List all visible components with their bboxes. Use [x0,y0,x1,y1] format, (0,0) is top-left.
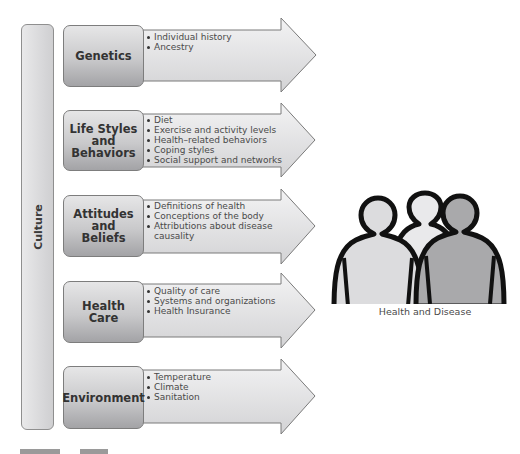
bullet-item: Conceptions of the body [147,211,272,221]
bullet-item-continuation: causality [147,231,272,241]
label-attitudes: Attitudes and Beliefs [63,195,144,257]
bullets-environment: Temperature Climate Sanitation [147,372,211,402]
bullet-item: Definitions of health [147,201,272,211]
cropped-caption-fragment [20,447,500,454]
bullet-item: Ancestry [147,42,232,52]
label-health-care: Health Care [63,281,144,343]
label-lifestyles-text: Life Styles and Behaviors [70,123,138,159]
people-group-icon [330,186,510,304]
label-genetics-text: Genetics [75,50,131,62]
arrow-genetics [140,18,316,92]
label-environment: Environment [63,366,144,429]
bullet-item: Coping styles [147,145,282,155]
bullet-item: Exercise and activity levels [147,125,282,135]
label-attitudes-text: Attitudes and Beliefs [73,208,133,244]
bullet-item: Temperature [147,372,211,382]
bullets-lifestyles: Diet Exercise and activity levels Health… [147,115,282,165]
bullet-item: Social support and networks [147,155,282,165]
bullet-item: Health Insurance [147,306,276,316]
bullet-item: Diet [147,115,282,125]
bullet-item: Health–related behaviors [147,135,282,145]
people-caption: Health and Disease [345,306,505,317]
label-environment-text: Environment [62,392,145,404]
bullet-item: Systems and organizations [147,296,276,306]
bullet-item: Individual history [147,32,232,42]
label-lifestyles: Life Styles and Behaviors [63,110,144,171]
bullets-genetics: Individual history Ancestry [147,32,232,52]
label-health-care-text: Health Care [67,300,140,324]
bullet-item: Attributions about disease [147,221,272,231]
bullets-attitudes: Definitions of health Conceptions of the… [147,201,272,241]
bullets-health-care: Quality of care Systems and organization… [147,286,276,316]
bullet-item: Climate [147,382,211,392]
label-genetics: Genetics [63,25,144,87]
bullet-item: Sanitation [147,392,211,402]
bullet-item: Quality of care [147,286,276,296]
